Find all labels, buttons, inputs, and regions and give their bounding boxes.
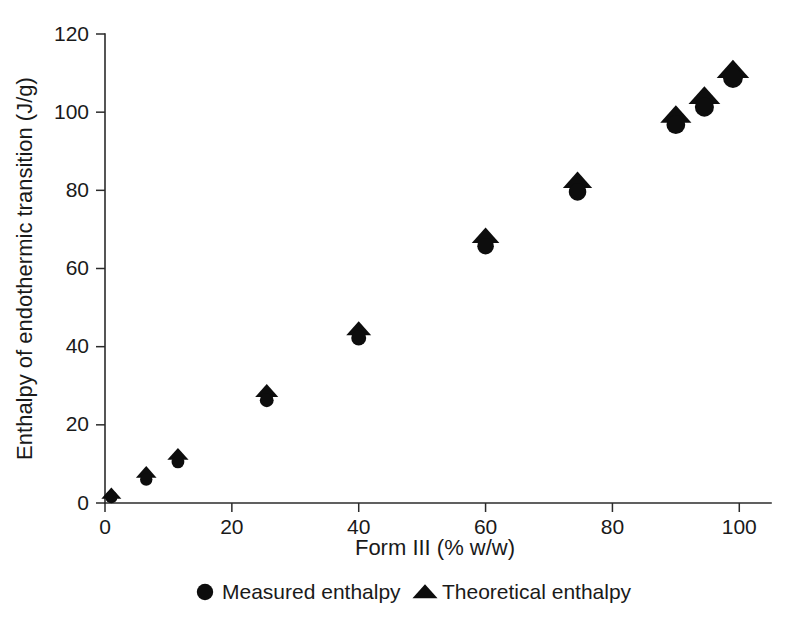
x-tick-label: 100 xyxy=(722,515,757,538)
measured-enthalpy-marker xyxy=(723,68,743,88)
measured-enthalpy-marker xyxy=(172,456,185,469)
measured-enthalpy-marker xyxy=(569,183,587,201)
y-tick-label: 100 xyxy=(54,100,89,123)
data-point-markers xyxy=(101,60,749,503)
y-axis-ticks: 020406080100120 xyxy=(54,22,105,514)
x-tick-label: 20 xyxy=(220,515,243,538)
measured-enthalpy-marker xyxy=(260,393,274,407)
y-tick-label: 40 xyxy=(66,334,89,357)
measured-enthalpy-marker xyxy=(666,115,685,134)
x-tick-label: 0 xyxy=(99,515,111,538)
y-tick-label: 60 xyxy=(66,256,89,279)
legend-label: Measured enthalpy xyxy=(222,580,401,603)
measured-enthalpy-marker xyxy=(477,238,494,255)
y-axis-title: Enthalpy of endothermic transition (J/g) xyxy=(12,77,37,460)
measured-enthalpy-marker xyxy=(105,491,117,503)
measured-enthalpy-marker xyxy=(695,98,714,117)
y-tick-label: 120 xyxy=(54,22,89,45)
y-tick-label: 0 xyxy=(77,491,89,514)
x-tick-label: 80 xyxy=(601,515,624,538)
axes-group xyxy=(105,34,771,503)
chart-legend: Measured enthalpyTheoretical enthalpy xyxy=(197,580,632,603)
y-tick-label: 80 xyxy=(66,178,89,201)
measured-enthalpy-marker xyxy=(351,331,366,346)
legend-circle-icon xyxy=(197,584,213,600)
y-tick-label: 20 xyxy=(66,412,89,435)
measured-enthalpy-marker xyxy=(140,473,152,485)
legend-triangle-icon xyxy=(412,584,437,598)
x-axis-title: Form III (% w/w) xyxy=(355,535,515,560)
x-axis-ticks: 020406080100 xyxy=(99,503,757,538)
legend-label: Theoretical enthalpy xyxy=(442,580,632,603)
chart-page: 020406080100120 020406080100 Enthalpy of… xyxy=(0,0,795,629)
scatter-plot-figure: 020406080100120 020406080100 Enthalpy of… xyxy=(0,0,795,629)
